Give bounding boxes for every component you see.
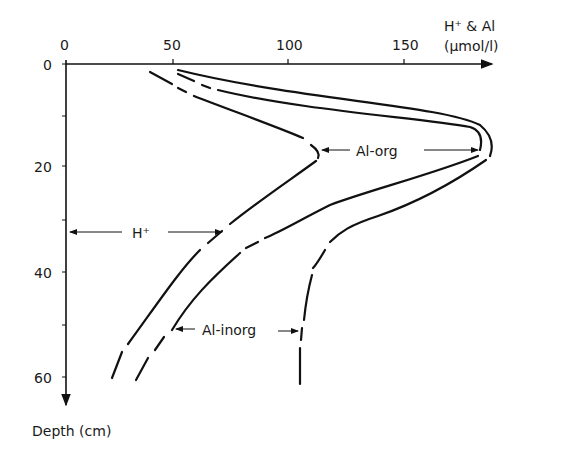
y-axis: 0 20 40 60 Depth (cm) bbox=[32, 57, 111, 439]
annotation-al-inorg: Al-inorg bbox=[176, 322, 298, 338]
x-axis-title: H⁺ & Al bbox=[444, 18, 495, 34]
label-al-org: Al-org bbox=[356, 143, 398, 159]
label-h-plus: H⁺ bbox=[132, 225, 150, 241]
x-tick-150: 150 bbox=[392, 37, 419, 53]
x-tick-50: 50 bbox=[163, 37, 181, 53]
x-tick-100: 100 bbox=[276, 37, 303, 53]
x-axis-unit: (µmol/l) bbox=[444, 38, 499, 54]
y-tick-40: 40 bbox=[34, 265, 52, 281]
x-tick-0: 0 bbox=[60, 37, 69, 53]
y-axis-title: Depth (cm) bbox=[32, 423, 111, 439]
depth-profile-chart: 0 50 100 150 H⁺ & Al (µmol/l) 0 20 40 60… bbox=[0, 0, 585, 469]
y-tick-0: 0 bbox=[43, 57, 52, 73]
annotation-h-plus: H⁺ bbox=[70, 225, 222, 241]
curve-h-plus-al-inorg bbox=[136, 74, 481, 380]
annotation-al-org: Al-org bbox=[322, 143, 478, 159]
label-al-inorg: Al-inorg bbox=[202, 322, 256, 338]
y-tick-60: 60 bbox=[34, 370, 52, 386]
x-axis: 0 50 100 150 H⁺ & Al (µmol/l) bbox=[60, 18, 499, 64]
y-tick-20: 20 bbox=[34, 159, 52, 175]
